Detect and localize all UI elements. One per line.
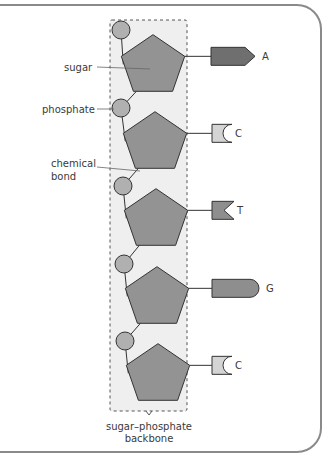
base-letter-label: G xyxy=(266,283,274,294)
phosphate-circle xyxy=(116,332,134,350)
base-letter-label: A xyxy=(262,51,269,62)
phosphate-circle xyxy=(114,177,132,195)
dna-diagram-canvas: ACTGC sugar phosphate chemical bond suga… xyxy=(0,0,332,462)
backbone-label-line2: backbone xyxy=(125,433,174,444)
chemical-bond-label-line1: chemical xyxy=(51,158,96,169)
dna-diagram: ACTGC sugar phosphate chemical bond suga… xyxy=(0,0,332,462)
phosphate-circle xyxy=(112,99,130,117)
sugar-label: sugar xyxy=(64,62,93,73)
base-letter-label: T xyxy=(236,205,244,216)
base-guanine-shape xyxy=(212,279,259,297)
phosphate-circle xyxy=(112,21,130,39)
phosphate-label: phosphate xyxy=(42,104,95,115)
chemical-bond-label-line2: bond xyxy=(51,171,76,182)
phosphate-circle xyxy=(115,255,133,273)
base-letter-label: C xyxy=(235,128,242,139)
backbone-label-line1: sugar–phosphate xyxy=(106,421,192,432)
base-adenine-shape xyxy=(211,47,255,65)
base-letter-label: C xyxy=(235,360,242,371)
